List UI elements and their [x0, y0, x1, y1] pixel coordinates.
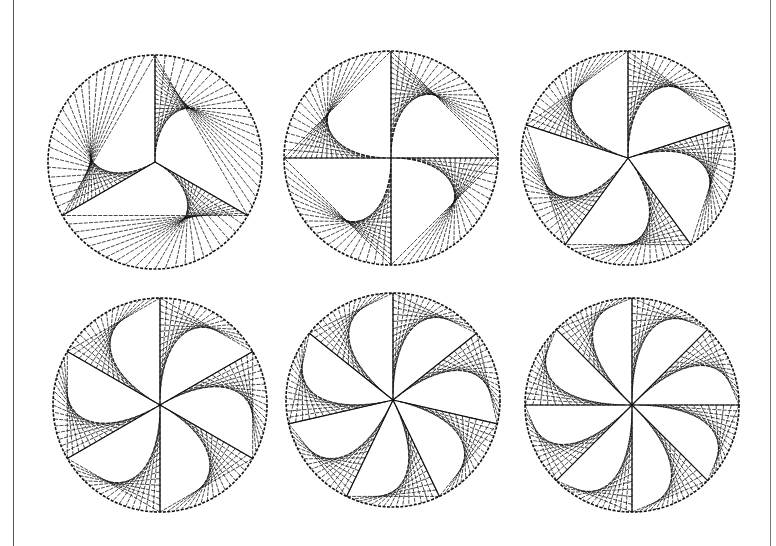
string-art-figure: [0, 0, 776, 546]
pattern-8-fold: [525, 298, 739, 512]
pattern-7-fold: [286, 293, 500, 507]
pattern-4-fold: [284, 51, 498, 265]
pattern-3-fold: [48, 55, 262, 269]
pattern-6-fold: [53, 298, 267, 512]
pattern-5-fold: [521, 51, 735, 265]
